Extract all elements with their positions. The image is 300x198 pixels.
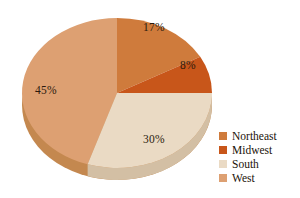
legend-label-west: West (232, 172, 255, 185)
legend-label-south: South (232, 158, 259, 171)
legend-swatch-west (219, 174, 227, 182)
pie-chart: 17% 8% 30% 45% Northeast Midwest South W… (0, 0, 300, 198)
legend-swatch-northeast (219, 132, 227, 140)
legend-label-northeast: Northeast (232, 130, 277, 143)
legend-item-midwest[interactable]: Midwest (219, 143, 299, 157)
legend-item-northeast[interactable]: Northeast (219, 129, 299, 143)
pie-top-face (22, 18, 212, 168)
legend-swatch-south (219, 160, 227, 168)
legend-label-midwest: Midwest (232, 144, 272, 157)
legend-swatch-midwest (219, 146, 227, 154)
legend: Northeast Midwest South West (219, 129, 299, 185)
legend-item-west[interactable]: West (219, 171, 299, 185)
legend-item-south[interactable]: South (219, 157, 299, 171)
